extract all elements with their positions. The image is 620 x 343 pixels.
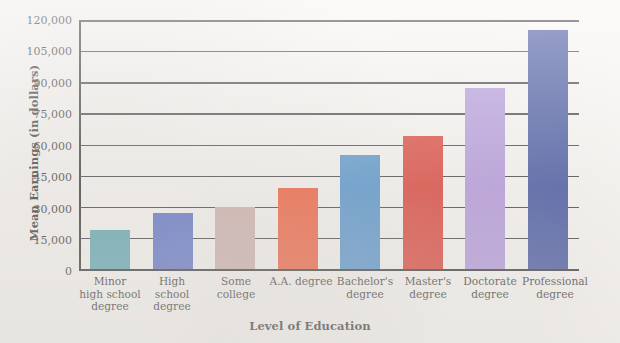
bar-some-college [215, 207, 255, 269]
x-category-label-7-line1: Professional [521, 275, 589, 288]
bar-aa-degree [278, 188, 318, 269]
x-category-label-3-line1: A.A. degree [269, 275, 333, 288]
x-category-label-6-line1: Doctorate [459, 275, 521, 288]
x-category-label-7-line2: degree [521, 288, 589, 301]
x-category-label-1-line1: High school [141, 275, 203, 300]
x-category-label-4: Bachelor's degree [333, 275, 397, 300]
x-axis-title: Level of Education [0, 319, 620, 333]
y-tick-label-45000: 45,000 [2, 171, 72, 184]
bar-professional-degree [528, 30, 568, 269]
x-category-label-4-line1: Bachelor's [333, 275, 397, 288]
y-tick-label-15000: 15,000 [2, 234, 72, 247]
x-category-label-1: High school degree [141, 275, 203, 313]
y-tick-label-90000: 90,000 [2, 77, 72, 90]
bar-chart: Mean Earnings (in dollars) 0 15,000 30,0… [0, 0, 620, 343]
x-category-label-0-line1: Minor [79, 275, 141, 288]
x-category-label-2: Some college [203, 275, 269, 300]
x-category-label-1-line2: degree [141, 300, 203, 313]
bars-layer [79, 20, 579, 269]
x-category-label-3: A.A. degree [269, 275, 333, 288]
x-category-label-0-line2: high school [79, 288, 141, 301]
x-category-label-6: Doctorate degree [459, 275, 521, 300]
plot-area [79, 20, 579, 271]
y-tick-label-75000: 75,000 [2, 108, 72, 121]
x-category-label-0-line3: degree [79, 300, 141, 313]
x-category-label-0: Minor high school degree [79, 275, 141, 313]
x-category-label-6-line2: degree [459, 288, 521, 301]
x-category-label-5: Master's degree [397, 275, 459, 300]
bar-minor-high-school-degree [90, 230, 130, 269]
y-tick-label-120000: 120,000 [2, 14, 72, 27]
bar-masters-degree [403, 136, 443, 269]
bar-bachelors-degree [340, 155, 380, 269]
bar-high-school-degree [153, 213, 193, 269]
x-category-label-4-line2: degree [333, 288, 397, 301]
x-category-label-5-line2: degree [397, 288, 459, 301]
x-category-label-7: Professional degree [521, 275, 589, 300]
bar-doctorate-degree [465, 88, 505, 269]
y-tick-label-105000: 105,000 [2, 45, 72, 58]
x-axis-line [79, 269, 579, 271]
y-tick-label-0: 0 [2, 265, 72, 278]
y-tick-label-30000: 30,000 [2, 203, 72, 216]
y-tick-label-60000: 60,000 [2, 140, 72, 153]
x-category-label-5-line1: Master's [397, 275, 459, 288]
x-category-label-2-line1: Some college [203, 275, 269, 300]
